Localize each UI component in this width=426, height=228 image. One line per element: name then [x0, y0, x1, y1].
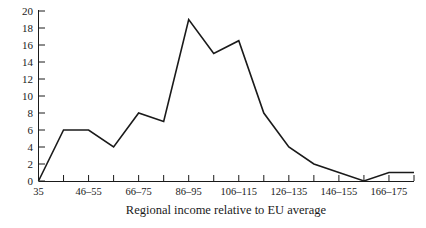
x-tick-label: 66–75 — [126, 186, 152, 197]
x-tick-marks — [39, 175, 415, 181]
chart-container: 0 2 4 6 8 10 12 14 16 18 20 3546–5566–75… — [0, 0, 426, 228]
x-axis-title: Regional income relative to EU average — [126, 203, 327, 217]
x-axis-tick-labels: 3546–5566–7586–95106–115126–135146–15516… — [33, 186, 407, 197]
y-axis-tick-labels: 0 2 4 6 8 10 12 14 16 18 20 — [22, 5, 34, 187]
y-tick-marks — [39, 11, 46, 181]
frequency-polygon-chart: 0 2 4 6 8 10 12 14 16 18 20 3546–5566–75… — [0, 0, 426, 228]
y-tick-label: 20 — [22, 5, 34, 17]
y-tick-label: 16 — [22, 39, 34, 51]
y-tick-label: 6 — [28, 124, 34, 136]
data-series-line — [39, 20, 415, 182]
y-tick-label: 14 — [22, 56, 34, 68]
x-tick-label: 46–55 — [75, 186, 101, 197]
y-tick-label: 18 — [22, 22, 34, 34]
x-tick-label: 166–175 — [371, 186, 408, 197]
x-tick-label: 146–155 — [321, 186, 358, 197]
x-tick-label: 86–95 — [176, 186, 202, 197]
y-tick-label: 12 — [22, 73, 33, 85]
y-tick-label: 2 — [28, 158, 34, 170]
x-tick-label: 35 — [33, 186, 44, 197]
y-tick-label: 10 — [22, 90, 34, 102]
y-tick-label: 4 — [28, 141, 34, 153]
x-tick-label: 126–135 — [270, 186, 307, 197]
y-tick-label: 8 — [28, 107, 34, 119]
x-tick-label: 106–115 — [221, 186, 257, 197]
